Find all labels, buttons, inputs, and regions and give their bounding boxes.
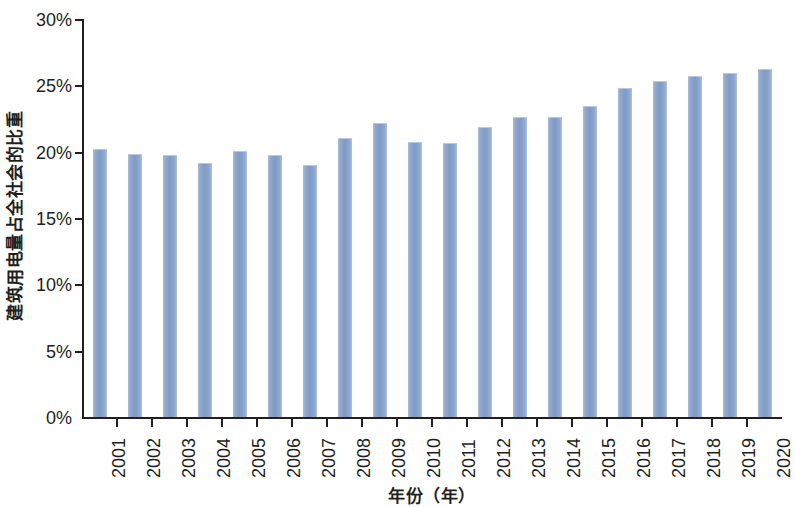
x-axis-tick-label-text: 2015 bbox=[599, 438, 620, 478]
bar-2013 bbox=[513, 117, 527, 417]
x-axis-tick-label-text: 2001 bbox=[109, 438, 130, 478]
x-axis-tick-label-text: 2016 bbox=[634, 438, 655, 478]
y-axis-title: 建筑用电量占全社会的比重 bbox=[0, 0, 26, 430]
y-axis-tick-mark bbox=[75, 85, 83, 87]
bar-2018 bbox=[688, 76, 702, 417]
y-axis-tick-label: 25% bbox=[36, 76, 72, 97]
x-axis-tick-label-text: 2019 bbox=[739, 438, 760, 478]
x-axis-tick-label-text: 2007 bbox=[319, 438, 340, 478]
x-axis-tick-label-text: 2003 bbox=[179, 438, 200, 478]
bar-2001 bbox=[93, 149, 107, 417]
y-axis-tick-mark bbox=[75, 284, 83, 286]
y-axis-tick-mark bbox=[75, 19, 83, 21]
bar-2010 bbox=[408, 142, 422, 417]
bar-2002 bbox=[128, 154, 142, 417]
bar-2016 bbox=[618, 88, 632, 417]
bar-2014 bbox=[548, 117, 562, 417]
y-axis-tick-labels: 0%5%10%15%20%25%30% bbox=[24, 0, 78, 440]
x-axis-tick-label-text: 2010 bbox=[424, 438, 445, 478]
y-axis-title-label: 建筑用电量占全社会的比重 bbox=[1, 110, 26, 320]
y-axis-tick-label: 0% bbox=[46, 408, 72, 429]
bar-2003 bbox=[163, 155, 177, 417]
y-axis-tick-mark bbox=[75, 351, 83, 353]
y-axis-tick-label: 15% bbox=[36, 209, 72, 230]
x-axis-tick-labels: 2001200220032004200520062007200820092010… bbox=[82, 422, 782, 484]
plot-area bbox=[82, 20, 782, 418]
y-axis-tick-label: 5% bbox=[46, 341, 72, 362]
y-axis-tick-label: 20% bbox=[36, 142, 72, 163]
bar-2019 bbox=[723, 73, 737, 417]
bar-2008 bbox=[338, 138, 352, 417]
bar-2017 bbox=[653, 81, 667, 417]
x-axis-tick-label-text: 2002 bbox=[144, 438, 165, 478]
x-axis-tick-label-text: 2012 bbox=[494, 438, 515, 478]
x-axis-tick-label-text: 2004 bbox=[214, 438, 235, 478]
bar-2004 bbox=[198, 163, 212, 417]
x-axis-title: 年份（年） bbox=[82, 482, 782, 507]
x-axis-tick-label-text: 2009 bbox=[389, 438, 410, 478]
bar-2020 bbox=[758, 69, 772, 417]
x-axis-tick-label-text: 2018 bbox=[704, 438, 725, 478]
x-axis-tick-label-text: 2017 bbox=[669, 438, 690, 478]
y-axis-tick-label: 10% bbox=[36, 275, 72, 296]
x-axis-tick-label-text: 2011 bbox=[459, 439, 480, 478]
x-axis-tick-label-text: 2014 bbox=[564, 438, 585, 478]
bar-2009 bbox=[373, 123, 387, 417]
x-axis-tick-label-text: 2006 bbox=[284, 438, 305, 478]
bar-2015 bbox=[583, 106, 597, 417]
y-axis-tick-label: 30% bbox=[36, 10, 72, 31]
y-axis-tick-mark bbox=[75, 152, 83, 154]
x-axis-tick-label-text: 2020 bbox=[774, 438, 795, 478]
x-axis-tick-label-text: 2008 bbox=[354, 438, 375, 478]
bar-2011 bbox=[443, 143, 457, 417]
bar-2012 bbox=[478, 127, 492, 417]
x-axis-title-label: 年份（年） bbox=[388, 486, 476, 506]
bar-2006 bbox=[268, 155, 282, 417]
bar-2007 bbox=[303, 165, 317, 417]
x-axis-tick-label-text: 2013 bbox=[529, 438, 550, 478]
bar-2005 bbox=[233, 151, 247, 417]
y-axis-tick-mark bbox=[75, 218, 83, 220]
x-axis-tick-label-text: 2005 bbox=[249, 438, 270, 478]
